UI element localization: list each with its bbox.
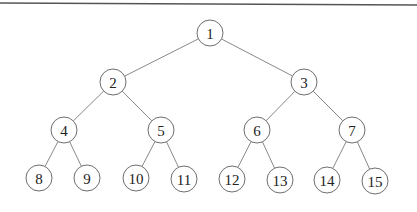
tree-edge-4-8 bbox=[45, 142, 58, 167]
tree-node-2: 2 bbox=[100, 69, 126, 95]
tree-edge-3-6 bbox=[266, 91, 295, 120]
top-rule bbox=[0, 3, 417, 5]
tree-node-15: 15 bbox=[362, 168, 388, 194]
tree-edge-1-3 bbox=[222, 39, 293, 76]
tree-edge-5-10 bbox=[142, 142, 155, 167]
node-label: 9 bbox=[83, 171, 91, 187]
tree-node-7: 7 bbox=[339, 117, 365, 143]
tree-edges bbox=[45, 39, 370, 169]
node-label: 8 bbox=[35, 171, 43, 187]
tree-node-10: 10 bbox=[123, 165, 149, 191]
tree-node-6: 6 bbox=[244, 117, 270, 143]
tree-edge-6-12 bbox=[238, 142, 251, 168]
tree-edge-6-13 bbox=[262, 142, 274, 168]
node-label: 5 bbox=[157, 123, 165, 139]
tree-edge-7-14 bbox=[333, 142, 346, 169]
tree-edge-4-9 bbox=[70, 142, 82, 167]
tree-edge-2-5 bbox=[122, 91, 152, 121]
tree-edge-1-2 bbox=[125, 39, 199, 76]
node-label: 13 bbox=[273, 173, 288, 189]
tree-node-14: 14 bbox=[314, 167, 340, 193]
node-label: 6 bbox=[253, 123, 261, 139]
tree-node-5: 5 bbox=[148, 117, 174, 143]
tree-node-11: 11 bbox=[171, 166, 197, 192]
node-label: 15 bbox=[368, 174, 383, 190]
node-label: 1 bbox=[206, 26, 214, 42]
node-label: 14 bbox=[320, 173, 336, 189]
tree-node-9: 9 bbox=[74, 165, 100, 191]
node-label: 7 bbox=[348, 123, 356, 139]
tree-edge-5-11 bbox=[167, 142, 179, 167]
tree-nodes: 123456789101112131415 bbox=[26, 20, 388, 194]
tree-edge-3-7 bbox=[313, 91, 343, 121]
node-label: 12 bbox=[225, 172, 240, 188]
node-label: 2 bbox=[109, 75, 117, 91]
tree-node-12: 12 bbox=[219, 166, 245, 192]
tree-edge-2-4 bbox=[73, 91, 103, 121]
node-label: 4 bbox=[60, 123, 68, 139]
tree-node-3: 3 bbox=[291, 69, 317, 95]
tree-node-4: 4 bbox=[51, 117, 77, 143]
node-label: 11 bbox=[177, 172, 191, 188]
tree-node-13: 13 bbox=[267, 167, 293, 193]
tree-node-1: 1 bbox=[197, 20, 223, 46]
node-label: 10 bbox=[129, 171, 144, 187]
tree-edge-7-15 bbox=[357, 142, 369, 169]
binary-tree-diagram: 123456789101112131415 bbox=[0, 0, 417, 212]
tree-node-8: 8 bbox=[26, 165, 52, 191]
node-label: 3 bbox=[300, 75, 308, 91]
